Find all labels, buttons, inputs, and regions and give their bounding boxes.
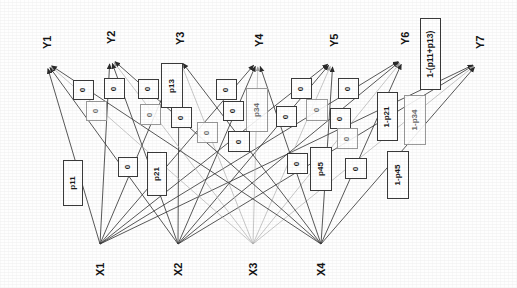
edge-label-text: p11 <box>69 176 77 189</box>
node-label-x2: X2 <box>172 263 184 276</box>
edge-label-text: p34 <box>253 103 261 117</box>
diagram-canvas: Y1Y2Y3Y4Y5Y6Y7X1X2X3X4 p11000000p130p210… <box>0 0 517 288</box>
edge-label-box-b-0-q: 0 <box>337 128 358 149</box>
edge-label-text: p45 <box>317 162 325 176</box>
edge-label-box-b-0-j: 0 <box>197 122 218 143</box>
edge-label-text: 0 <box>124 165 132 169</box>
edge-label-text: 0 <box>222 87 230 91</box>
node-label-y2: Y2 <box>105 31 117 44</box>
edge-label-text: 0 <box>177 115 185 119</box>
edge-label-text: 0 <box>92 109 100 113</box>
node-label-x3: X3 <box>247 263 259 276</box>
edge-label-text: 1-p34 <box>411 110 419 131</box>
edge-label-text: 0 <box>146 112 154 116</box>
edge-label-box-b-0-m: 0 <box>276 106 297 127</box>
edge-label-text: p21 <box>153 167 161 181</box>
edge-label-text: 0 <box>229 109 237 113</box>
edge-label-box-b-0-n: 0 <box>306 99 328 121</box>
edge-label-box-b-0-p: 0 <box>330 108 351 129</box>
edge-label-box-b-0-o: 0 <box>338 78 359 99</box>
edge-label-box-b-1p21: 1-p21 <box>377 92 398 141</box>
node-label-y7: Y7 <box>474 36 486 49</box>
edge-label-box-b-0-s: 0 <box>345 158 367 179</box>
edge-label-text: p13 <box>168 79 176 93</box>
edge-label-text: 0 <box>203 130 211 134</box>
node-label-x4: X4 <box>315 263 327 276</box>
edge-label-box-b-p11: p11 <box>63 160 83 206</box>
node-label-y1: Y1 <box>41 36 53 49</box>
edge-label-text: 0 <box>235 139 243 143</box>
edge-label-box-b-1p45: 1-p45 <box>387 151 409 199</box>
edge-label-text: 0 <box>313 108 321 112</box>
edge-label-box-b-0-i: 0 <box>223 101 244 121</box>
edge-label-text: 0 <box>344 86 352 90</box>
edge-label-box-b-0-f: 0 <box>140 104 161 125</box>
edge-label-text: 0 <box>343 136 351 140</box>
node-label-x1: X1 <box>94 263 106 276</box>
edge-label-text: 0 <box>352 166 360 170</box>
edge-label-text: 1-p21 <box>384 106 392 127</box>
edge-label-text: 0 <box>336 116 344 120</box>
edge-label-box-b-0-e: 0 <box>138 79 159 99</box>
edge-label-box-b-0-k: 0 <box>228 131 250 152</box>
edge-label-box-b-p34: p34 <box>246 88 268 132</box>
node-label-y4: Y4 <box>253 34 265 47</box>
edge-label-text: 0 <box>144 87 152 91</box>
edge-label-box-b-p21: p21 <box>147 152 167 196</box>
node-label-y3: Y3 <box>174 32 186 45</box>
edge-label-text: 0 <box>297 86 305 90</box>
edge-label-text: 1-(p11+p13) <box>426 30 435 77</box>
edge-label-box-b-0-c: 0 <box>104 78 125 99</box>
edge-label-text: 0 <box>293 161 301 165</box>
node-label-y6: Y6 <box>399 32 411 45</box>
edge-label-box-b-p13: p13 <box>161 63 183 108</box>
edge-label-text: 1-p45 <box>394 165 402 186</box>
edge-label-box-b-0-r: 0 <box>287 153 308 174</box>
edge-label-box-b-0-g: 0 <box>171 107 192 128</box>
node-label-y5: Y5 <box>328 34 340 47</box>
edge-label-box-b-0-a: 0 <box>73 80 94 100</box>
edge-label-box-b-0-l: 0 <box>291 78 312 99</box>
edge-label-box-b-p45: p45 <box>310 147 332 191</box>
edge-label-text: 0 <box>79 88 87 92</box>
edge-label-box-b-0-b: 0 <box>86 101 107 121</box>
edge-label-text: 0 <box>282 114 290 118</box>
edge-label-box-b-0-h: 0 <box>216 79 237 100</box>
edge-label-box-b-1p11p13: 1-(p11+p13) <box>420 18 441 90</box>
edge-label-box-b-0-d: 0 <box>118 157 138 177</box>
edge-label-text: 0 <box>110 86 118 90</box>
edge-label-box-b-1p34: 1-p34 <box>404 95 426 145</box>
